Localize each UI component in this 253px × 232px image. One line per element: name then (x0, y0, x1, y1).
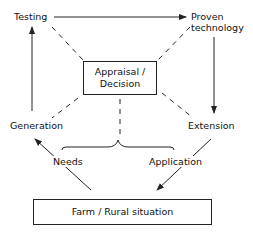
node-farm-rural-situation: Farm / Rural situation (33, 199, 212, 225)
node-testing: Testing (14, 11, 47, 22)
dashed-proven-to-appraisal (158, 27, 190, 60)
curly-brace (62, 140, 174, 150)
dashed-testing-to-appraisal (52, 27, 83, 60)
edge-label-needs: Needs (52, 156, 84, 167)
node-appraisal-decision: Appraisal / Decision (83, 61, 157, 95)
node-generation: Generation (10, 120, 63, 131)
appraisal-line1: Appraisal / (95, 66, 146, 78)
node-extension: Extension (188, 120, 235, 131)
node-proven-line1: Proven (191, 11, 224, 22)
research-extension-cycle-diagram: Testing Proven technology Appraisal / De… (0, 0, 253, 232)
edge-label-application: Application (148, 156, 203, 167)
connector-lines (0, 0, 253, 232)
farm-label: Farm / Rural situation (72, 206, 174, 218)
node-proven-line2: technology (191, 22, 244, 33)
appraisal-line2: Decision (100, 78, 140, 90)
dashed-appraisal-to-generation (52, 98, 78, 118)
dashed-appraisal-to-extension (162, 93, 192, 117)
